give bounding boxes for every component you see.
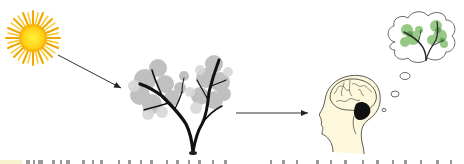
thought-bubble-tree-icon (388, 12, 455, 63)
diagram-canvas (0, 0, 464, 164)
cropped-caption (0, 158, 464, 164)
thought-trail-bubbles (382, 73, 410, 112)
tree-icon (128, 55, 233, 155)
head-brain-icon (319, 75, 380, 154)
arrow-sun-to-tree (58, 55, 121, 88)
sun-icon (6, 11, 60, 65)
